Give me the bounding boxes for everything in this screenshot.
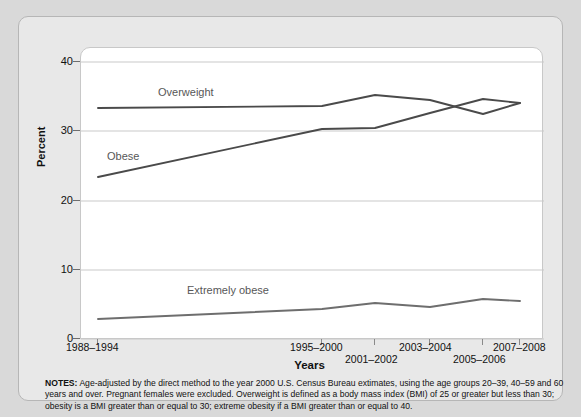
y-tick-mark	[73, 130, 80, 131]
series-inline-label: Obese	[107, 150, 139, 162]
x-tick-mark	[482, 339, 483, 345]
notes-label: NOTES:	[45, 378, 77, 388]
y-tick-label: 10	[41, 264, 73, 275]
chart-svg	[81, 48, 544, 340]
y-axis: 403020100	[37, 17, 73, 357]
x-tick-label: 1995–2000	[290, 342, 343, 353]
y-tick-mark	[73, 61, 80, 62]
plot-area	[80, 47, 543, 339]
y-tick-label: 20	[41, 195, 73, 206]
x-tick-mark	[374, 339, 375, 345]
x-tick-label: 1988–1994	[66, 342, 119, 353]
notes-text: Age-adjusted by the direct method to the…	[45, 378, 563, 411]
series-line	[98, 99, 520, 177]
series-lines	[98, 95, 520, 319]
y-tick-label: 40	[41, 56, 73, 67]
y-tick-mark	[73, 269, 80, 270]
series-inline-label: Overweight	[158, 86, 214, 98]
gridlines	[81, 62, 544, 339]
series-line	[98, 299, 520, 319]
x-tick-label: 2003–2004	[399, 342, 452, 353]
x-tick-label: 2007–2008	[493, 342, 546, 353]
figure-card: 403020100 Percent OverweightObeseExtreme…	[18, 16, 563, 401]
y-axis-title: Percent	[35, 127, 47, 167]
y-tick-mark	[73, 338, 80, 339]
x-axis-title: Years	[19, 359, 581, 371]
y-tick-mark	[73, 200, 80, 201]
chart-notes: NOTES: Age-adjusted by the direct method…	[45, 378, 579, 412]
series-inline-label: Extremely obese	[187, 284, 269, 296]
